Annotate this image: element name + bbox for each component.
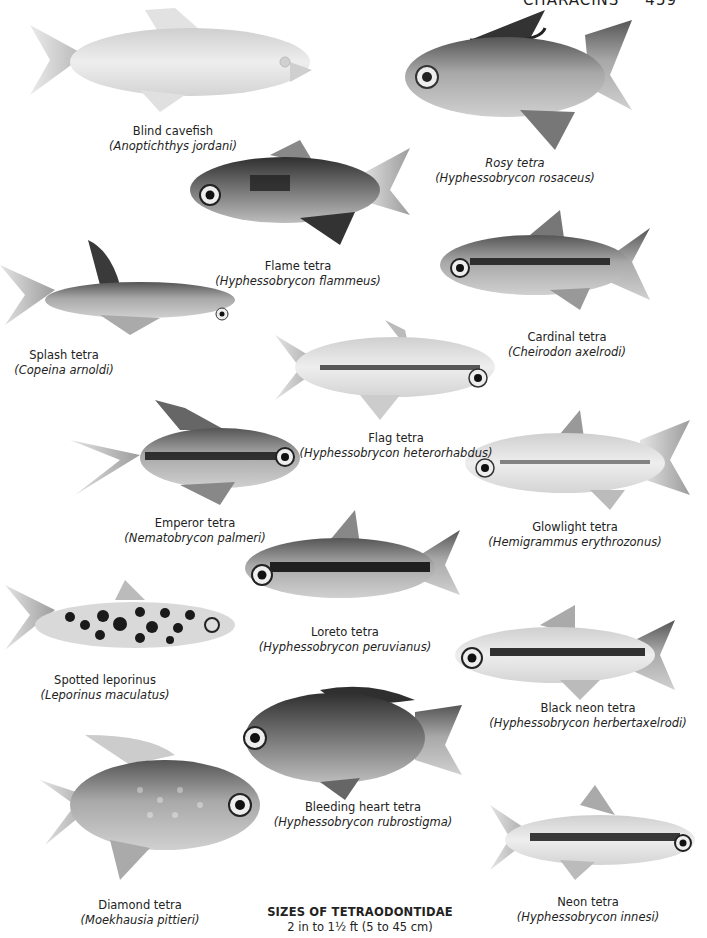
caption-glowlight-tetra: Glowlight tetra (Hemigrammus erythrozonu…	[488, 520, 661, 550]
latin-name: (Hyphessobrycon rubrostigma)	[274, 815, 453, 830]
common-name: Neon tetra	[517, 895, 659, 910]
caption-flame-tetra: Flame tetra (Hyphessobrycon flammeus)	[215, 259, 380, 289]
common-name: Black neon tetra	[489, 701, 686, 716]
caption-spotted-leporinus: Spotted leporinus (Leporinus maculatus)	[41, 673, 170, 703]
fish-flame-tetra	[190, 140, 410, 245]
caption-black-neon-tetra: Black neon tetra (Hyphessobrycon herbert…	[489, 701, 686, 731]
fish-flag-tetra	[275, 320, 495, 420]
sizes-note: SIZES OF TETRAODONTIDAE 2 in to 1½ ft (5…	[267, 905, 453, 935]
sizes-range: 2 in to 1½ ft (5 to 45 cm)	[267, 920, 453, 935]
fish-black-neon-tetra	[455, 605, 675, 700]
latin-name: (Hyphessobrycon herbertaxelrodi)	[489, 716, 686, 731]
fish-rosy-tetra	[405, 10, 632, 150]
caption-flag-tetra: Flag tetra (Hyphessobrycon heterorhabdus…	[300, 431, 493, 461]
latin-name: (Leporinus maculatus)	[41, 688, 170, 703]
caption-diamond-tetra: Diamond tetra (Moekhausia pittieri)	[81, 898, 200, 928]
caption-emperor-tetra: Emperor tetra (Nematobrycon palmeri)	[124, 516, 265, 546]
common-name: Emperor tetra	[124, 516, 265, 531]
common-name: Loreto tetra	[259, 625, 431, 640]
caption-rosy-tetra: Rosy tetra (Hyphessobrycon rosaceus)	[435, 156, 595, 186]
common-name: Rosy tetra	[435, 156, 595, 171]
fish-illustrations	[0, 0, 707, 938]
latin-name: (Hyphessobrycon rosaceus)	[435, 171, 595, 186]
fish-blind-cavefish	[30, 8, 312, 112]
latin-name: (Hyphessobrycon heterorhabdus)	[300, 446, 493, 461]
caption-bleeding-heart-tetra: Bleeding heart tetra (Hyphessobrycon rub…	[274, 800, 453, 830]
latin-name: (Hemigrammus erythrozonus)	[488, 535, 661, 550]
fish-glowlight-tetra	[465, 410, 690, 510]
common-name: Glowlight tetra	[488, 520, 661, 535]
caption-neon-tetra: Neon tetra (Hyphessobrycon innesi)	[517, 895, 659, 925]
latin-name: (Anoptichthys jordani)	[109, 139, 237, 154]
common-name: Flag tetra	[300, 431, 493, 446]
fish-emperor-tetra	[70, 400, 300, 505]
fish-splash-tetra	[0, 240, 235, 335]
common-name: Splash tetra	[14, 348, 113, 363]
latin-name: (Nematobrycon palmeri)	[124, 531, 265, 546]
caption-splash-tetra: Splash tetra (Copeina arnoldi)	[14, 348, 113, 378]
common-name: Blind cavefish	[109, 124, 237, 139]
fish-cardinal-tetra	[440, 210, 650, 310]
caption-blind-cavefish: Blind cavefish (Anoptichthys jordani)	[109, 124, 237, 154]
fish-spotted-leporinus	[5, 580, 235, 650]
latin-name: (Hyphessobrycon peruvianus)	[259, 640, 431, 655]
common-name: Flame tetra	[215, 259, 380, 274]
latin-name: (Hyphessobrycon flammeus)	[215, 274, 380, 289]
fish-diamond-tetra	[40, 735, 260, 880]
caption-loreto-tetra: Loreto tetra (Hyphessobrycon peruvianus)	[259, 625, 431, 655]
latin-name: (Moekhausia pittieri)	[81, 913, 200, 928]
sizes-title: SIZES OF TETRAODONTIDAE	[267, 905, 453, 920]
latin-name: (Copeina arnoldi)	[14, 363, 113, 378]
common-name: Cardinal tetra	[508, 330, 626, 345]
common-name: Diamond tetra	[81, 898, 200, 913]
fish-neon-tetra	[490, 785, 695, 880]
fish-bleeding-heart-tetra	[244, 687, 462, 800]
caption-cardinal-tetra: Cardinal tetra (Cheirodon axelrodi)	[508, 330, 626, 360]
fish-loreto-tetra	[245, 510, 460, 598]
latin-name: (Hyphessobrycon innesi)	[517, 910, 659, 925]
latin-name: (Cheirodon axelrodi)	[508, 345, 626, 360]
common-name: Bleeding heart tetra	[274, 800, 453, 815]
common-name: Spotted leporinus	[41, 673, 170, 688]
